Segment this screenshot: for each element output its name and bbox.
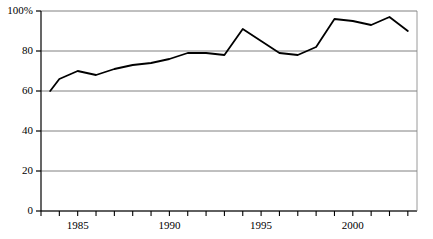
x-tick-label: 1990: [149, 220, 189, 231]
y-tick-marks-group: [36, 11, 41, 211]
y-tick-label: 60: [22, 85, 33, 96]
x-tick-label: 1985: [58, 220, 98, 231]
y-tick-label: 20: [22, 165, 33, 176]
x-tick-label: 1995: [241, 220, 281, 231]
y-tick-label: 0: [28, 205, 34, 216]
data-line: [50, 17, 408, 91]
y-tick-label: 80: [22, 45, 33, 56]
data-line-group: [50, 17, 408, 91]
x-tick-marks-group: [41, 211, 408, 216]
chart-canvas: [0, 0, 433, 239]
y-tick-label: 100%: [7, 5, 33, 16]
gridlines-group: [41, 11, 417, 211]
line-chart: 020406080100% 1985199019952000: [0, 0, 433, 239]
x-axis-group: [41, 11, 417, 211]
x-tick-label: 2000: [333, 220, 373, 231]
y-tick-label: 40: [22, 125, 33, 136]
